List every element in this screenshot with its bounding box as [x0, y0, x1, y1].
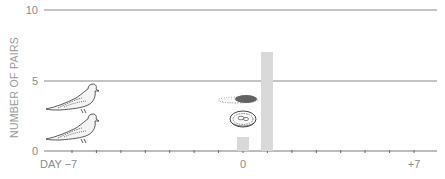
y-tick-0: 0: [32, 145, 38, 157]
y-tick-10: 10: [26, 4, 38, 16]
dove-icon: [46, 84, 99, 113]
bar-day-0: [237, 137, 249, 151]
y-axis-label: NUMBER OF PAIRS: [8, 37, 20, 138]
x-label-start: DAY −7: [40, 158, 77, 170]
y-tick-5: 5: [32, 75, 38, 87]
x-label-end: +7: [408, 158, 421, 170]
chart: 10 5 0 NUMBER OF PAIRS DAY −7 0 +7: [0, 0, 445, 179]
x-label-zero: 0: [240, 158, 246, 170]
dove-icon: [46, 114, 99, 143]
nest-with-eggs-icon: [230, 111, 256, 127]
bar-day-1: [261, 52, 273, 151]
nest-material-icon: [218, 95, 258, 103]
